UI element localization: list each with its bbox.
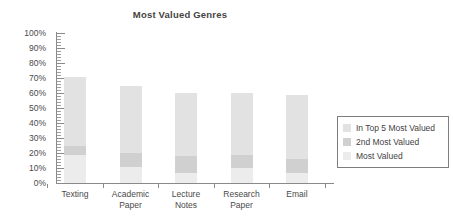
y-axis-tick-label: 30% [12, 134, 46, 142]
bar-segment [64, 77, 86, 146]
bar-segment [231, 168, 253, 183]
y-axis-tick-label: 10% [12, 164, 46, 172]
legend: In Top 5 Most Valued2nd Most ValuedMost … [337, 116, 449, 168]
legend-item[interactable]: In Top 5 Most Valued [343, 121, 444, 135]
bar-stack [120, 86, 142, 184]
bar-segment [120, 167, 142, 184]
bar-segment [286, 173, 308, 184]
bar-segment [175, 93, 197, 156]
legend-swatch-icon [343, 124, 351, 132]
x-axis-tick [325, 184, 326, 188]
y-axis-tick-label: 100% [12, 29, 46, 37]
bar-segment [231, 93, 253, 155]
category-label-line: Email [262, 189, 332, 200]
chart-page: Most Valued Genres 100%90%80%70%60%50%40… [0, 0, 453, 221]
y-axis-major-tick [57, 183, 65, 184]
legend-item-label: Most Valued [356, 151, 403, 161]
bar-segment [175, 173, 197, 184]
y-axis-tick-label: 70% [12, 74, 46, 82]
legend-item-label: 2nd Most Valued [356, 137, 419, 147]
bar-segment [120, 86, 142, 154]
y-axis-tick-label: 80% [12, 59, 46, 67]
bar-stack [231, 93, 253, 183]
x-axis-line [56, 183, 334, 184]
legend-swatch-icon [343, 152, 351, 160]
bar-segment [175, 156, 197, 173]
y-axis-tick-label: 60% [12, 89, 46, 97]
x-axis-tick [269, 184, 270, 188]
bar-stack [175, 93, 197, 183]
x-axis-tick [158, 184, 159, 188]
y-axis-tick-label: 40% [12, 119, 46, 127]
category-label-line: Paper [207, 200, 277, 211]
legend-item-label: In Top 5 Most Valued [356, 123, 435, 133]
x-axis-tick [214, 184, 215, 188]
legend-swatch-icon [343, 138, 351, 146]
legend-item[interactable]: 2nd Most Valued [343, 135, 444, 149]
y-axis-tick-label: 90% [12, 44, 46, 52]
x-axis-category-label: Email [262, 189, 332, 200]
bar-segment [120, 153, 142, 167]
bar-segment [64, 155, 86, 184]
plot-area [57, 33, 333, 183]
bar-stack [64, 77, 86, 184]
bar-segment [64, 146, 86, 155]
legend-item[interactable]: Most Valued [343, 149, 444, 163]
y-axis-tick-labels: 100%90%80%70%60%50%40%30%20%10%0% [8, 0, 46, 221]
x-axis-tick [47, 184, 48, 188]
bar-segment [286, 95, 308, 160]
bar-segment [286, 159, 308, 173]
x-axis-tick [103, 184, 104, 188]
y-axis-tick-label: 0% [12, 179, 46, 187]
y-axis-tick-label: 20% [12, 149, 46, 157]
page-title: Most Valued Genres [0, 9, 360, 20]
bar-segment [231, 155, 253, 169]
y-axis-tick-label: 50% [12, 104, 46, 112]
bar-stack [286, 95, 308, 184]
